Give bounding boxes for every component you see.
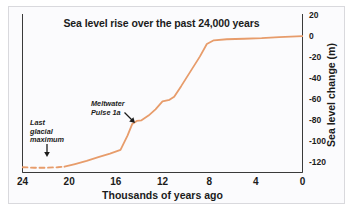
plot-area xyxy=(22,14,303,173)
x-tick-label-4: 4 xyxy=(253,176,259,187)
x-tick-label-12: 12 xyxy=(157,176,168,187)
annotation-arrow-down-icon xyxy=(42,144,54,158)
y-tick-label-neg100: -100 xyxy=(309,136,326,146)
annotation-last-glacial-maximum: Last glacial maximum xyxy=(30,119,64,145)
annotation-arrow-down-right-icon xyxy=(124,112,138,126)
chart-plot-svg xyxy=(22,14,303,173)
x-axis-label: Thousands of years ago xyxy=(22,189,303,201)
x-tick-label-20: 20 xyxy=(64,176,75,187)
y-axis-label: Sea level change (m) xyxy=(325,43,337,147)
y-tick-label-neg80: -80 xyxy=(309,115,321,125)
y-tick-label-neg40: -40 xyxy=(309,73,321,83)
x-tick-label-16: 16 xyxy=(110,176,121,187)
y-tick-label-0: 0 xyxy=(309,31,314,41)
y-tick-label-neg120: -120 xyxy=(309,157,326,167)
x-tick-label-8: 8 xyxy=(206,176,212,187)
figure-container: Sea level rise over the past 24,000 year… xyxy=(0,0,353,219)
sea-level-curve-inferred xyxy=(23,167,65,168)
x-tick-label-24: 24 xyxy=(17,176,28,187)
y-tick-label-neg20: -20 xyxy=(309,52,321,62)
annotation-meltwater-pulse-1a: Meltwater Pulse 1a xyxy=(91,100,125,117)
y-tick-label-neg60: -60 xyxy=(309,94,321,104)
y-tick-label-20: 20 xyxy=(309,10,318,20)
x-tick-label-0: 0 xyxy=(300,176,306,187)
